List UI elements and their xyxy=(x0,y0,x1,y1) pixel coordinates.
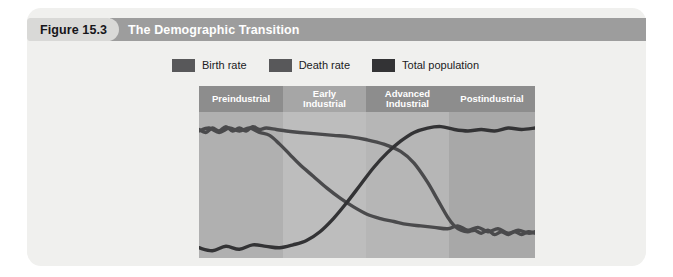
legend-label: Birth rate xyxy=(202,59,247,71)
chart-legend: Birth rateDeath rateTotal population xyxy=(172,56,542,74)
stage-header-line: Industrial xyxy=(386,98,429,109)
legend-swatch-icon xyxy=(372,59,395,72)
figure-number-label: Figure 15.3 xyxy=(27,18,119,41)
figure-title-bar: The Demographic Transition xyxy=(110,18,646,41)
stage-header-line: Advanced xyxy=(385,88,430,99)
chart-curves xyxy=(199,112,535,258)
stage-header-early-industrial: EarlyIndustrial xyxy=(283,86,366,112)
series-line-birth-rate xyxy=(199,127,535,235)
stage-header-line: Preindustrial xyxy=(212,93,270,104)
legend-label: Total population xyxy=(402,59,479,71)
legend-swatch-icon xyxy=(172,59,195,72)
demographic-transition-chart: PreindustrialEarlyIndustrialAdvancedIndu… xyxy=(199,86,535,258)
stage-header-postindustrial: Postindustrial xyxy=(449,86,535,112)
stage-header-preindustrial: Preindustrial xyxy=(199,86,283,112)
series-line-death-rate xyxy=(199,128,535,233)
stage-header-line: Postindustrial xyxy=(460,93,523,104)
stage-header-line: Early xyxy=(313,88,336,99)
legend-entry: Birth rate xyxy=(172,59,247,72)
stage-header-advanced-industrial: AdvancedIndustrial xyxy=(366,86,449,112)
stage-header-line: Industrial xyxy=(303,98,346,109)
legend-label: Death rate xyxy=(299,59,350,71)
stage-header-row: PreindustrialEarlyIndustrialAdvancedIndu… xyxy=(199,86,535,112)
legend-entry: Total population xyxy=(372,59,479,72)
figure-title: The Demographic Transition xyxy=(128,23,299,37)
legend-entry: Death rate xyxy=(269,59,350,72)
figure-card: Figure 15.3 The Demographic Transition B… xyxy=(27,8,646,266)
figure-header: Figure 15.3 The Demographic Transition xyxy=(27,18,646,41)
legend-swatch-icon xyxy=(269,59,292,72)
